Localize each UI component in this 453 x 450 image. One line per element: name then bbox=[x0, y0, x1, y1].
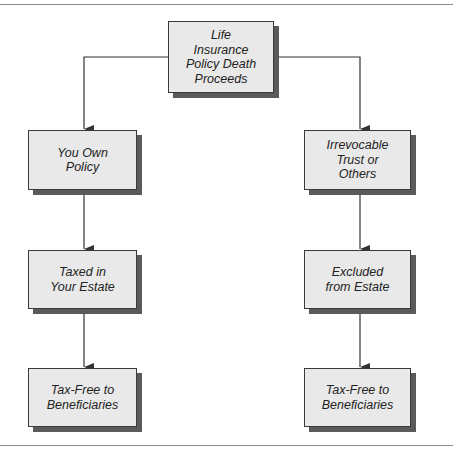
right-node-tax-free: Tax-Free to Beneficiaries bbox=[304, 368, 411, 427]
node-label: Irrevocable Trust or Others bbox=[327, 138, 389, 182]
node-label: Excluded from Estate bbox=[326, 265, 390, 294]
left-node-tax-free: Tax-Free to Beneficiaries bbox=[28, 368, 137, 427]
connector-root-right bbox=[273, 57, 360, 129]
root-node: Life Insurance Policy Death Proceeds bbox=[168, 21, 274, 93]
right-node-excluded-from-estate: Excluded from Estate bbox=[304, 250, 411, 309]
node-label: Tax-Free to Beneficiaries bbox=[47, 383, 119, 412]
right-node-irrevocable-trust: Irrevocable Trust or Others bbox=[304, 130, 411, 190]
left-node-taxed-in-estate: Taxed in Your Estate bbox=[28, 250, 137, 309]
root-node-label: Life Insurance Policy Death Proceeds bbox=[186, 28, 256, 86]
connector-root-left bbox=[84, 57, 168, 129]
left-node-you-own-policy: You Own Policy bbox=[28, 130, 137, 190]
node-label: Tax-Free to Beneficiaries bbox=[322, 383, 394, 412]
node-label: You Own Policy bbox=[57, 146, 108, 175]
node-label: Taxed in Your Estate bbox=[50, 265, 115, 294]
